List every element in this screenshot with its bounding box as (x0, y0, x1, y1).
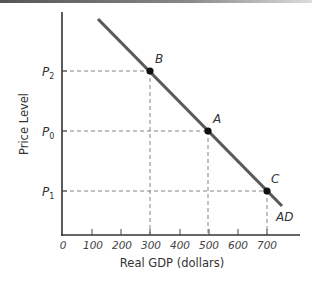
x-axis-title: Real GDP (dollars) (120, 256, 224, 270)
y-tick-p0: P0 (42, 125, 54, 141)
svg-text:300: 300 (141, 239, 161, 251)
y-tick-p1: P1 (42, 185, 54, 201)
point-a (204, 127, 211, 134)
y-axis-title: Price Level (17, 93, 31, 155)
guide-lines (63, 71, 267, 235)
point-c-label: C (271, 172, 280, 186)
ad-curve (98, 19, 282, 206)
x-tick-labels: 0 100 200 300 400 500 600 700 (60, 239, 278, 251)
point-c (263, 187, 270, 194)
ad-curve-label: AD (275, 210, 293, 224)
svg-text:100: 100 (83, 239, 103, 251)
svg-text:600: 600 (228, 239, 248, 251)
y-tick-p2: P2 (42, 65, 54, 81)
x-ticks (92, 229, 267, 235)
point-b (146, 67, 153, 74)
svg-text:500: 500 (199, 239, 219, 251)
svg-text:700: 700 (257, 239, 277, 251)
point-a-label: A (212, 112, 221, 126)
svg-text:200: 200 (112, 239, 132, 251)
svg-text:400: 400 (170, 239, 190, 251)
point-b-label: B (155, 52, 163, 66)
svg-text:0: 0 (60, 239, 67, 251)
ad-chart: B A C AD P2 P0 P1 0 100 200 300 400 500 … (0, 0, 312, 283)
